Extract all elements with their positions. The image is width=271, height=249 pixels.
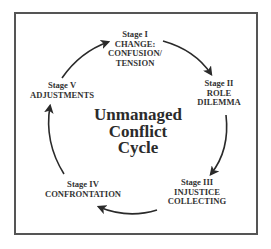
- stage-5-text-1: ADJUSTMENTS: [30, 91, 94, 101]
- diagram-title: Unmanaged Conflict Cycle: [94, 107, 182, 157]
- stage-5-node: Stage V ADJUSTMENTS: [30, 81, 94, 100]
- arrow-stage5-to-stage1: [62, 42, 108, 78]
- stage-2-node: Stage II ROLE DILEMMA: [197, 79, 240, 108]
- stage-1-text-3: TENSION: [108, 59, 162, 69]
- title-line-3: Cycle: [94, 140, 182, 157]
- arrow-stage2-to-stage3: [211, 115, 227, 174]
- stage-3-text-2: COLLECTING: [168, 197, 226, 207]
- arrow-stage4-to-stage5: [49, 106, 64, 174]
- stage-3-node: Stage III INJUSTICE COLLECTING: [168, 178, 226, 207]
- stage-1-node: Stage I CHANGE: CONFUSION/ TENSION: [108, 30, 162, 68]
- arrow-stage1-to-stage2: [163, 41, 211, 74]
- arrow-stage3-to-stage4: [99, 207, 157, 214]
- stage-4-text-1: CONFRONTATION: [45, 190, 121, 200]
- stage-4-node: Stage IV CONFRONTATION: [45, 180, 121, 199]
- stage-2-text-2: DILEMMA: [197, 98, 240, 108]
